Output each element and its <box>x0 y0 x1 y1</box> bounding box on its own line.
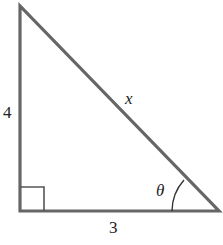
horizontal-leg-label: 3 <box>109 218 118 237</box>
vertical-leg-label: 4 <box>3 103 12 122</box>
angle-theta-label: θ <box>156 181 164 200</box>
hypotenuse-label: x <box>124 89 133 108</box>
triangle-outline <box>20 6 219 211</box>
right-triangle-diagram: 4 3 x θ <box>0 0 223 245</box>
angle-theta-arc <box>172 180 184 211</box>
right-angle-marker <box>20 187 44 211</box>
